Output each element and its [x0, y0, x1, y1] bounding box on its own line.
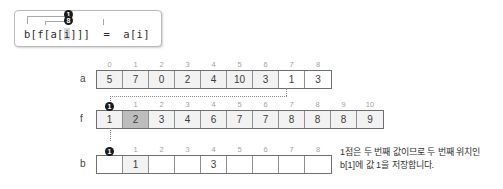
code-prefix: b[f[a[: [24, 28, 64, 40]
value-a-7: 1: [289, 74, 295, 85]
index-a-5: 5: [227, 60, 252, 69]
index-a-3: 3: [175, 60, 200, 69]
cell-a-8[interactable]: 83: [305, 71, 331, 88]
annotation-line-outer-vertical-left: [27, 16, 28, 24]
cell-f-9[interactable]: 98: [331, 111, 357, 128]
cell-f-10[interactable]: 109: [357, 111, 383, 128]
index-b-7: 7: [279, 145, 304, 154]
value-f-7: 8: [289, 114, 295, 125]
array-a: 05 17 20 32 44 510 63 71 83: [96, 70, 332, 89]
index-b-5: 5: [227, 145, 252, 154]
index-f-1: 1: [123, 100, 148, 109]
cell-f-3[interactable]: 34: [175, 111, 201, 128]
cell-b-5[interactable]: 5: [227, 156, 253, 173]
index-b-2: 2: [149, 145, 174, 154]
row-label-f: f: [80, 113, 83, 124]
index-f-6: 6: [253, 100, 278, 109]
index-b-4: 4: [201, 145, 226, 154]
index-b-6: 6: [253, 145, 278, 154]
cell-f-8[interactable]: 88: [305, 111, 331, 128]
row-label-a: a: [80, 73, 86, 84]
value-a-5: 10: [234, 74, 245, 85]
cell-b-0[interactable]: 0: [97, 156, 123, 173]
cell-a-3[interactable]: 32: [175, 71, 201, 88]
index-f-8: 8: [305, 100, 330, 109]
caption: 1점은 두 번째 값이므로 두 번째 위치인 b[1]에 값 1을 저장합니다.: [340, 146, 500, 172]
code-expression: b[f[a[i]]] = a[i]: [24, 28, 150, 40]
cell-f-6[interactable]: 67: [253, 111, 279, 128]
marker-b-index-1: 1: [105, 147, 114, 156]
index-b-8: 8: [305, 145, 331, 154]
cell-a-7[interactable]: 71: [279, 71, 305, 88]
value-f-9: 8: [341, 114, 347, 125]
index-a-6: 6: [253, 60, 278, 69]
index-a-7: 7: [279, 60, 304, 69]
index-a-2: 2: [149, 60, 174, 69]
value-b-1: 1: [133, 159, 139, 170]
cell-f-2[interactable]: 23: [149, 111, 175, 128]
value-f-5: 7: [237, 114, 243, 125]
value-f-3: 4: [185, 114, 191, 125]
index-b-1: 1: [123, 145, 148, 154]
index-f-5: 5: [227, 100, 252, 109]
cell-b-7[interactable]: 7: [279, 156, 305, 173]
cell-a-6[interactable]: 63: [253, 71, 279, 88]
value-f-2: 3: [159, 114, 165, 125]
annotation-line-inner-vertical-left: [45, 21, 46, 25]
annotation-line-outer-horizontal: [27, 16, 68, 17]
array-b: 0 11 2 3 43 5 6 7 8: [96, 155, 332, 174]
cell-a-4[interactable]: 44: [201, 71, 227, 88]
caption-line-1: 1점은 두 번째 값이므로 두 번째 위치인: [340, 146, 500, 159]
value-a-0: 5: [107, 74, 113, 85]
cell-b-8[interactable]: 8: [305, 156, 331, 173]
cell-b-1[interactable]: 11: [123, 156, 149, 173]
index-f-2: 2: [149, 100, 174, 109]
value-a-1: 7: [133, 74, 139, 85]
index-f-3: 3: [175, 100, 200, 109]
cell-a-1[interactable]: 17: [123, 71, 149, 88]
cell-b-3[interactable]: 3: [175, 156, 201, 173]
value-f-8: 8: [315, 114, 321, 125]
value-a-4: 4: [211, 74, 217, 85]
index-f-4: 4: [201, 100, 226, 109]
value-f-4: 6: [211, 114, 217, 125]
value-a-3: 2: [185, 74, 191, 85]
cell-f-0[interactable]: 01: [97, 111, 123, 128]
cell-a-2[interactable]: 20: [149, 71, 175, 88]
connector-a7-vertical: [286, 88, 287, 96]
index-a-1: 1: [123, 60, 148, 69]
index-a-0: 0: [97, 60, 122, 69]
index-f-10: 10: [357, 100, 383, 109]
index-b-3: 3: [175, 145, 200, 154]
cell-f-5[interactable]: 57: [227, 111, 253, 128]
cell-b-2[interactable]: 2: [149, 156, 175, 173]
cell-b-4[interactable]: 43: [201, 156, 227, 173]
annotation-line-result-vertical: [103, 19, 104, 25]
row-label-b: b: [80, 158, 86, 169]
index-a-4: 4: [201, 60, 226, 69]
caption-line-2: b[1]에 값 1을 저장합니다.: [340, 159, 500, 172]
cell-a-0[interactable]: 05: [97, 71, 123, 88]
cell-f-7[interactable]: 78: [279, 111, 305, 128]
value-b-4: 3: [211, 159, 217, 170]
connector-a7-to-f1-horizontal: [110, 96, 287, 97]
value-a-2: 0: [159, 74, 165, 85]
cell-a-5[interactable]: 510: [227, 71, 253, 88]
cell-b-6[interactable]: 6: [253, 156, 279, 173]
index-f-9: 9: [331, 100, 356, 109]
value-f-0: 1: [107, 114, 113, 125]
index-a-8: 8: [305, 60, 331, 69]
array-f: 01 12 23 34 46 57 67 78 88 98 109: [96, 110, 384, 129]
cell-f-4[interactable]: 46: [201, 111, 227, 128]
code-badge-eight: 8: [64, 16, 73, 25]
value-a-8: 3: [315, 74, 321, 85]
value-f-1: 2: [133, 114, 139, 125]
marker-f-index-1: 1: [105, 102, 114, 111]
index-f-7: 7: [279, 100, 304, 109]
value-f-10: 9: [367, 114, 373, 125]
cell-f-1[interactable]: 12: [123, 111, 149, 128]
value-a-6: 3: [263, 74, 269, 85]
code-suffix: ]]] = a[i]: [70, 28, 149, 40]
connector-f1-to-b1: [110, 128, 111, 141]
value-f-6: 7: [263, 114, 269, 125]
